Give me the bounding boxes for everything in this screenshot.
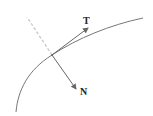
- curve: [16, 18, 143, 112]
- normal-vector-arrow: [52, 55, 76, 89]
- point-on-curve: [51, 54, 53, 56]
- tangent-label: T: [83, 15, 90, 26]
- normal-line-extension: [27, 17, 52, 55]
- tangent-vector-arrow: [52, 28, 88, 55]
- normal-label: N: [80, 86, 88, 97]
- tangent-normal-diagram: T N: [0, 0, 153, 116]
